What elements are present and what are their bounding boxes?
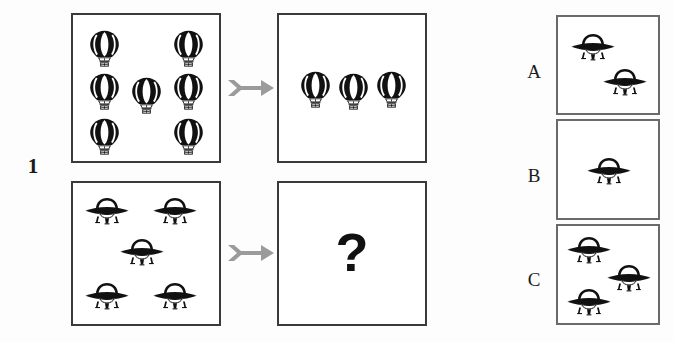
ufo-icon xyxy=(566,288,612,316)
ufo-icon xyxy=(84,282,130,310)
hot-air-balloon-icon xyxy=(173,73,204,111)
ufo-icon xyxy=(570,33,616,61)
answer-label-a: A xyxy=(521,62,547,81)
right-arrow-icon xyxy=(228,242,274,264)
ufo-icon xyxy=(84,197,130,225)
ufo-icon xyxy=(586,157,632,185)
hot-air-balloon-icon xyxy=(89,118,120,156)
hot-air-balloon-icon xyxy=(173,30,204,68)
matrix-cell-top-right xyxy=(277,13,427,163)
hot-air-balloon-icon xyxy=(131,77,162,115)
hot-air-balloon-icon xyxy=(89,73,120,111)
matrix-cell-bottom-left xyxy=(71,181,221,326)
ufo-icon xyxy=(152,282,198,310)
ufo-icon xyxy=(566,236,612,264)
ufo-icon xyxy=(152,197,198,225)
hot-air-balloon-icon xyxy=(376,71,407,109)
answer-option-b[interactable] xyxy=(556,119,660,220)
hot-air-balloon-icon xyxy=(338,73,369,111)
answer-option-c[interactable] xyxy=(556,224,660,325)
answer-label-b: B xyxy=(521,166,547,185)
right-arrow-icon xyxy=(228,77,274,99)
ufo-icon xyxy=(606,264,652,292)
answer-option-a[interactable] xyxy=(556,15,660,115)
answer-label-c: C xyxy=(521,270,547,289)
ufo-icon xyxy=(602,68,648,96)
hot-air-balloon-icon xyxy=(89,30,120,68)
hot-air-balloon-icon xyxy=(173,118,204,156)
matrix-cell-top-left xyxy=(71,13,221,163)
question-mark: ? xyxy=(277,181,427,326)
hot-air-balloon-icon xyxy=(300,71,331,109)
problem-number: 1 xyxy=(18,156,48,177)
ufo-icon xyxy=(119,238,165,266)
